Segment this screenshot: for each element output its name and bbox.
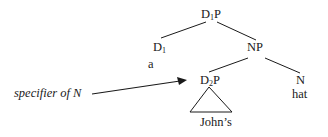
triangle-icon <box>190 87 232 112</box>
edge-np-n <box>265 58 300 73</box>
node-d1p-cat: D <box>201 7 210 21</box>
node-d1p-suffix: P <box>214 7 221 21</box>
node-n: N <box>296 74 305 87</box>
edge-np-d2p <box>209 58 248 72</box>
annotation-specifier-of-n: specifier of N <box>14 87 81 100</box>
annotation-arrow-line <box>92 81 180 94</box>
word-hat: hat <box>292 88 307 101</box>
edge-root-d1 <box>161 22 206 38</box>
node-d1-sub: 1 <box>162 46 166 55</box>
node-d2p-cat: D <box>200 73 209 87</box>
node-d1-cat: D <box>153 40 162 54</box>
node-np: NP <box>247 41 263 54</box>
tree-lines <box>0 0 328 137</box>
node-d1: D1 <box>153 41 166 55</box>
word-a: a <box>148 58 154 71</box>
node-d2p: D2P <box>200 74 220 88</box>
node-d1p: D1P <box>201 8 221 22</box>
word-johns: John’s <box>200 116 232 129</box>
edge-root-np <box>217 22 256 40</box>
arrowhead-icon <box>177 77 187 85</box>
node-d2p-suffix: P <box>213 73 220 87</box>
